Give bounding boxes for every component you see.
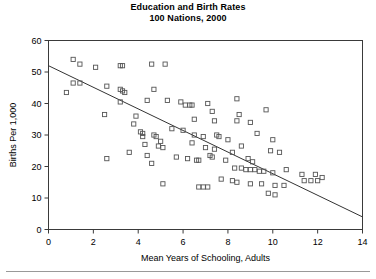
data-point (150, 161, 154, 165)
data-point (239, 166, 243, 170)
data-point (248, 120, 252, 124)
data-point (273, 193, 277, 197)
y-tick-label: 60 (31, 36, 41, 46)
data-point (235, 119, 239, 123)
data-point (71, 57, 75, 61)
data-point (266, 191, 270, 195)
data-point (264, 108, 268, 112)
data-point (71, 81, 75, 85)
data-point (78, 62, 82, 66)
data-point (159, 139, 163, 143)
data-point (201, 185, 205, 189)
data-point (127, 150, 131, 154)
data-point (94, 65, 98, 69)
chart-figure: Education and Birth Rates 100 Nations, 2… (0, 0, 376, 279)
data-point (170, 127, 174, 131)
data-point (102, 112, 106, 116)
data-point (197, 185, 201, 189)
data-point (145, 98, 149, 102)
data-point (212, 119, 216, 123)
data-point (230, 179, 234, 183)
data-point (282, 183, 286, 187)
data-point (210, 109, 214, 113)
data-point (246, 157, 250, 161)
data-point (174, 155, 178, 159)
x-tick-label: 6 (181, 237, 186, 247)
data-point (248, 182, 252, 186)
data-point (239, 144, 243, 148)
x-tick-label: 10 (268, 237, 278, 247)
data-point (224, 158, 228, 162)
data-point (233, 166, 237, 170)
data-point (152, 87, 156, 91)
y-tick-label: 20 (31, 162, 41, 172)
x-axis-title: Mean Years of Schooling, Adults (141, 253, 271, 263)
data-point (273, 183, 277, 187)
data-point (161, 182, 165, 186)
x-tick-label: 4 (136, 237, 141, 247)
y-tick-label: 0 (36, 225, 41, 235)
data-point (268, 149, 272, 153)
data-point (145, 153, 149, 157)
data-point (320, 175, 324, 179)
data-point (134, 114, 138, 118)
data-point (143, 142, 147, 146)
data-point (201, 134, 205, 138)
x-axis: 02468101214 (46, 230, 368, 247)
data-point (284, 168, 288, 172)
data-point (235, 97, 239, 101)
chart-title-block: Education and Birth Rates 100 Nations, 2… (0, 2, 376, 24)
data-point (235, 180, 239, 184)
data-point (105, 84, 109, 88)
x-tick-label: 14 (357, 237, 367, 247)
data-point (244, 168, 248, 172)
y-tick-label: 50 (31, 67, 41, 77)
data-point (192, 117, 196, 121)
data-point (206, 185, 210, 189)
data-point (309, 179, 313, 183)
y-tick-label: 10 (31, 193, 41, 203)
data-point (165, 98, 169, 102)
data-point (185, 157, 189, 161)
data-point (161, 146, 165, 150)
data-point (271, 138, 275, 142)
data-point (163, 62, 167, 66)
data-point (277, 150, 281, 154)
data-point (183, 103, 187, 107)
x-tick-label: 8 (225, 237, 230, 247)
data-point (316, 179, 320, 183)
y-tick-label: 40 (31, 99, 41, 109)
data-point (179, 100, 183, 104)
data-point (105, 157, 109, 161)
y-axis-title: Births Per 1,000 (8, 103, 18, 168)
x-tick-label: 12 (313, 237, 323, 247)
x-tick-label: 2 (91, 237, 96, 247)
data-point (190, 141, 194, 145)
data-point (259, 182, 263, 186)
scatter-plot: 010203040506002468101214Mean Years of Sc… (0, 0, 376, 279)
data-point (212, 147, 216, 151)
y-tick-label: 30 (31, 130, 41, 140)
data-point (206, 101, 210, 105)
data-points (64, 57, 324, 197)
data-point (255, 131, 259, 135)
y-axis: 0102030405060 (31, 36, 48, 235)
chart-subtitle: 100 Nations, 2000 (0, 13, 376, 24)
data-point (132, 122, 136, 126)
data-point (150, 62, 154, 66)
data-point (300, 172, 304, 176)
data-point (219, 177, 223, 181)
data-point (203, 146, 207, 150)
data-point (226, 138, 230, 142)
data-point (156, 144, 160, 148)
trend-line (49, 66, 363, 217)
x-tick-label: 0 (46, 237, 51, 247)
data-point (302, 179, 306, 183)
chart-title: Education and Birth Rates (0, 2, 376, 13)
data-point (313, 172, 317, 176)
data-point (248, 168, 252, 172)
data-point (64, 90, 68, 94)
data-point (253, 168, 257, 172)
data-point (237, 112, 241, 116)
data-point (257, 169, 261, 173)
